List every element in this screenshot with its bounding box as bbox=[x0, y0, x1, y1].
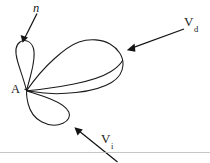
apex-label: A bbox=[11, 83, 20, 96]
direct-velocity-label: Vd bbox=[184, 15, 198, 31]
normal-vector-arrow-line bbox=[25, 14, 37, 39]
figure-root: n A Vd Vi bbox=[0, 0, 210, 163]
indirect-velocity-label-subscript: i bbox=[111, 141, 113, 151]
direct-velocity-label-subscript: d bbox=[194, 24, 198, 34]
lower-lobe-path bbox=[27, 91, 70, 125]
large-right-lobe-path bbox=[27, 40, 123, 94]
normal-vector-arrow bbox=[21, 14, 37, 43]
direct-velocity-label-main: V bbox=[184, 14, 193, 29]
indirect-velocity-label: Vi bbox=[101, 132, 113, 148]
direct-velocity-arrow bbox=[127, 29, 184, 52]
direct-velocity-arrow-line bbox=[133, 29, 184, 48]
normal-vector-label: n bbox=[33, 2, 39, 15]
large-right-lobe-fold-path bbox=[27, 61, 123, 91]
indirect-velocity-arrowhead bbox=[74, 127, 82, 135]
indirect-velocity-label-main: V bbox=[101, 131, 110, 146]
direct-velocity-arrowhead bbox=[127, 44, 136, 52]
